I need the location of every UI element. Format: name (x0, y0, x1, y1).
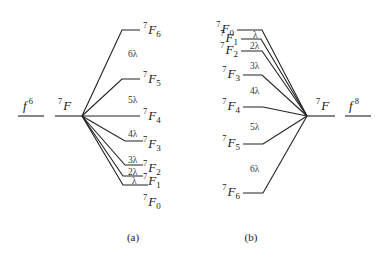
caption-b: (b) (245, 231, 258, 244)
spin-orbit-splitting-diagram: f6 7F 7F6 7F5 7F4 7F3 7F2 7F1 7F0 6λ 5λ … (0, 0, 388, 257)
7F6-label-b: 7F6 (222, 182, 240, 201)
spacing-2lambda-b: 2λ (250, 41, 260, 51)
spacing-3lambda-b: 3λ (250, 61, 260, 71)
caption-a: (a) (127, 231, 140, 244)
7F4-label-b: 7F4 (222, 96, 240, 115)
7F-term-label-b: 7F (316, 96, 330, 113)
spacing-6lambda-b: 6λ (250, 164, 260, 174)
panel-a: f6 7F 7F6 7F5 7F4 7F3 7F2 7F1 7F0 6λ 5λ … (18, 20, 161, 244)
spacing-3lambda-a: 3λ (128, 155, 138, 165)
spacing-lambda-a: λ (132, 176, 137, 186)
spacing-5lambda-b: 5λ (250, 122, 260, 132)
7F0-level-a (82, 116, 148, 185)
spacing-4lambda-b: 4λ (250, 86, 260, 96)
7F3-label-a: 7F3 (143, 134, 161, 153)
spacing-6lambda-a: 6λ (128, 49, 138, 59)
7F-term-label-a: 7F (58, 96, 72, 113)
spacing-4lambda-a: 4λ (128, 129, 138, 139)
f8-configuration-label: f8 (349, 96, 359, 113)
7F4-label-a: 7F4 (143, 106, 161, 125)
7F5-label-a: 7F5 (143, 69, 161, 88)
panel-b: 7F f8 7F0 7F1 7F2 7F3 7F4 7F5 7F6 λ 2λ 3… (216, 19, 371, 244)
spacing-5lambda-a: 5λ (128, 95, 138, 105)
f6-configuration-label: f6 (23, 96, 33, 113)
7F6-label-a: 7F6 (143, 20, 161, 39)
7F3-label-b: 7F3 (222, 64, 240, 83)
spacing-lambda-b: λ (253, 30, 258, 40)
7F4-level-b (243, 107, 307, 116)
7F0-label-a: 7F0 (143, 192, 161, 211)
7F0-level-b (237, 30, 307, 116)
7F5-label-b: 7F5 (222, 133, 240, 152)
